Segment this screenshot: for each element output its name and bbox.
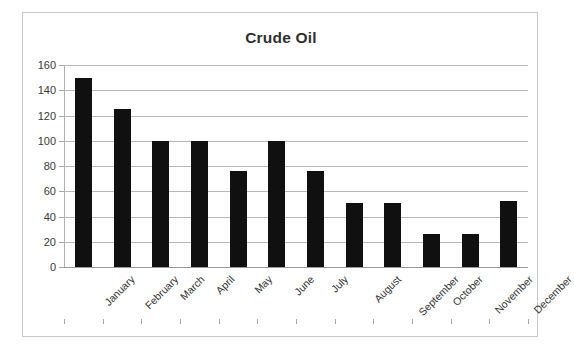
y-axis-tick-label: 80	[26, 161, 56, 172]
bar[interactable]	[75, 78, 92, 267]
y-axis-tick-mark	[59, 191, 64, 192]
gridline	[64, 166, 528, 167]
x-axis-tick-label: July	[329, 273, 351, 295]
chart-frame: Crude Oil 020406080100120140160 JanuaryF…	[22, 12, 538, 337]
x-axis-tick-label: November	[492, 273, 535, 316]
y-axis-tick-mark	[59, 217, 64, 218]
x-axis-tick-label: December	[531, 273, 574, 316]
bar[interactable]	[500, 201, 517, 267]
x-axis-tick-mark	[528, 319, 529, 324]
x-axis-tick-label: January	[102, 273, 137, 308]
gridline	[64, 116, 528, 117]
x-axis-tick-label: March	[177, 273, 206, 302]
bar[interactable]	[114, 109, 131, 267]
y-axis-tick-label: 100	[26, 136, 56, 147]
y-axis-tick-mark	[59, 141, 64, 142]
y-axis-tick-label: 120	[26, 111, 56, 122]
x-axis-tick-label: August	[372, 273, 404, 305]
gridline	[64, 217, 528, 218]
gridline	[64, 141, 528, 142]
gridline	[64, 191, 528, 192]
x-axis-tick-label: June	[291, 273, 316, 298]
y-axis-tick-mark	[59, 90, 64, 91]
y-axis-tick-labels: 020406080100120140160	[23, 13, 56, 338]
bar[interactable]	[423, 234, 440, 267]
gridline	[64, 267, 528, 268]
x-axis-tick-labels: JanuaryFebruaryMarchAprilMayJuneJulyAugu…	[64, 273, 528, 335]
plot-area	[64, 65, 528, 267]
bar[interactable]	[191, 141, 208, 267]
bar[interactable]	[346, 203, 363, 267]
y-axis-tick-label: 140	[26, 85, 56, 96]
y-axis-tick-mark	[59, 166, 64, 167]
x-axis-tick-label: February	[142, 273, 180, 311]
gridline	[64, 242, 528, 243]
y-axis-tick-label: 160	[26, 60, 56, 71]
bar[interactable]	[462, 234, 479, 267]
bar[interactable]	[307, 171, 324, 267]
bar[interactable]	[384, 203, 401, 267]
y-axis-tick-mark	[59, 267, 64, 268]
bar[interactable]	[268, 141, 285, 267]
y-axis-tick-label: 20	[26, 237, 56, 248]
y-axis-tick-mark	[59, 242, 64, 243]
y-axis-tick-label: 0	[26, 262, 56, 273]
x-axis-tick-label: April	[213, 273, 236, 296]
bar[interactable]	[230, 171, 247, 267]
y-axis-tick-label: 60	[26, 186, 56, 197]
bar[interactable]	[152, 141, 169, 267]
y-axis-tick-label: 40	[26, 212, 56, 223]
gridline	[64, 65, 528, 66]
x-axis-tick-label: May	[252, 273, 275, 296]
chart-title: Crude Oil	[23, 29, 539, 47]
y-axis-tick-mark	[59, 65, 64, 66]
gridline	[64, 90, 528, 91]
y-axis-tick-mark	[59, 116, 64, 117]
